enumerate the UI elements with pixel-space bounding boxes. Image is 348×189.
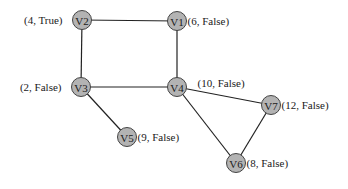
node-v3: V3(2, False) bbox=[20, 78, 91, 97]
node-label: V2 bbox=[75, 15, 88, 27]
node-annotation: (2, False) bbox=[20, 81, 62, 94]
edge-v4-v7 bbox=[177, 87, 271, 105]
node-v7: V7(12, False) bbox=[262, 96, 329, 115]
node-label: V3 bbox=[74, 82, 88, 94]
node-annotation: (10, False) bbox=[198, 77, 245, 90]
edge-v2-v1 bbox=[82, 20, 177, 21]
node-label: V5 bbox=[120, 132, 134, 144]
node-label: V1 bbox=[170, 16, 183, 28]
node-annotation: (12, False) bbox=[282, 99, 329, 112]
node-v4: V4(10, False) bbox=[168, 77, 245, 97]
node-label: V4 bbox=[170, 82, 184, 94]
node-label: V7 bbox=[264, 100, 278, 112]
node-label: V6 bbox=[229, 158, 243, 170]
node-v6: V6(8, False) bbox=[227, 154, 289, 173]
nodes-layer: V1(6, False)V2(4, True)V3(2, False)V4(10… bbox=[20, 11, 329, 173]
edge-v4-v6 bbox=[177, 87, 236, 163]
graph-diagram: V1(6, False)V2(4, True)V3(2, False)V4(10… bbox=[0, 0, 348, 189]
edge-v3-v5 bbox=[81, 87, 127, 137]
node-v2: V2(4, True) bbox=[24, 11, 92, 30]
node-annotation: (9, False) bbox=[138, 131, 180, 144]
edge-v2-v3 bbox=[81, 20, 82, 87]
edge-v7-v6 bbox=[236, 105, 271, 163]
node-annotation: (6, False) bbox=[188, 15, 230, 28]
node-v5: V5(9, False) bbox=[118, 128, 180, 147]
node-annotation: (8, False) bbox=[247, 157, 289, 170]
node-annotation: (4, True) bbox=[24, 14, 63, 27]
node-v1: V1(6, False) bbox=[168, 12, 230, 31]
